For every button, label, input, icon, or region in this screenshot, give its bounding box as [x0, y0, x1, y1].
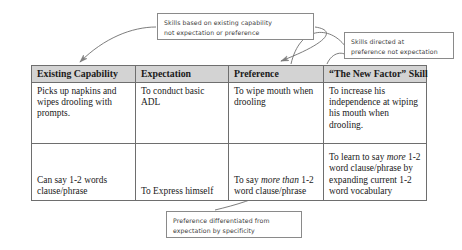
callout-preference-line1: Skills directed at — [351, 37, 448, 47]
table-row: Picks up napkins and wipes drooling with… — [32, 83, 427, 144]
cell-skill-text-pre: To learn to say — [329, 152, 387, 162]
cell-existing-capability: Picks up napkins and wipes drooling with… — [32, 83, 136, 144]
cell-preference-text-pre: To say — [234, 175, 261, 185]
callout-specificity: Preference differentiated from expectati… — [166, 211, 302, 238]
cell-new-factor-skill: To learn to say more 1-2 word clause/phr… — [324, 144, 427, 201]
column-header-existing-capability: Existing Capability — [32, 66, 136, 83]
cell-skill-text-emphasis: more — [387, 152, 406, 162]
callout-capability-line2: not expectation or preference — [164, 28, 308, 38]
cell-preference-text-emphasis: more than — [261, 175, 299, 185]
callout-specificity-line1: Preference differentiated from — [173, 216, 296, 226]
table-row: Can say 1-2 words clause/phrase To Expre… — [32, 144, 427, 201]
table-header-row: Existing Capability Expectation Preferen… — [32, 66, 427, 83]
skill-matrix-table: Existing Capability Expectation Preferen… — [31, 65, 427, 201]
cell-preference: To wipe mouth when drooling — [229, 83, 324, 144]
connector-capability-to-existing — [80, 27, 156, 62]
cell-new-factor-skill: To increase his independence at wiping h… — [324, 83, 427, 144]
callout-preference-line2: preference not expectation — [351, 47, 448, 57]
column-header-expectation: Expectation — [136, 66, 229, 83]
diagram-canvas: Skills based on existing capability not … — [0, 0, 462, 250]
column-header-preference: Preference — [229, 66, 324, 83]
cell-expectation: To Express himself — [136, 144, 229, 201]
callout-existing-capability: Skills based on existing capability not … — [157, 13, 314, 40]
cell-existing-capability: Can say 1-2 words clause/phrase — [32, 144, 136, 201]
callout-preference: Skills directed at preference not expect… — [344, 32, 454, 59]
callout-specificity-line2: expectation by specificity — [173, 226, 296, 236]
cell-expectation: To conduct basic ADL — [136, 83, 229, 144]
column-header-new-factor-skill: “The New Factor” Skill — [324, 66, 427, 83]
cell-preference: To say more than 1-2 word clause/phrase — [229, 144, 324, 201]
callout-capability-line1: Skills based on existing capability — [164, 18, 308, 28]
